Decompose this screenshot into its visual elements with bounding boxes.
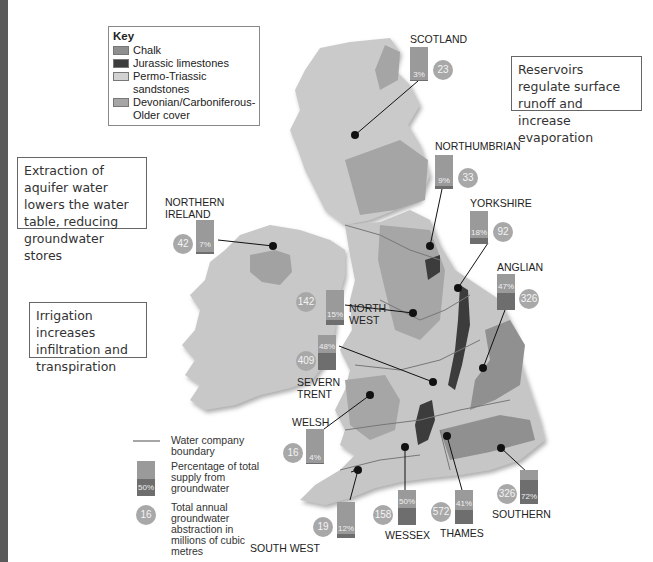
bar-welsh: 4% [306, 429, 324, 464]
bar-north-west: 15% [326, 290, 344, 325]
jurassic-swatch [113, 59, 129, 68]
region-label-north-west: NORTH WEST [349, 302, 389, 326]
dot-north-west [409, 309, 417, 317]
region-label-southern: SOUTHERN [492, 508, 551, 520]
dot-anglian [479, 364, 487, 372]
bar-northumbrian: 9% [435, 155, 453, 189]
chalk-swatch [113, 46, 129, 55]
bar-severn-trent: 48% [318, 335, 336, 370]
dot-wessex [401, 443, 409, 451]
circle-northumbrian: 33 [458, 168, 478, 188]
region-label-south-west: SOUTH WEST [250, 542, 320, 554]
bar-wessex: 50% [398, 490, 416, 525]
circle-scotland: 23 [433, 60, 453, 80]
irrigation-annotation: Irrigation increases infiltration and tr… [29, 302, 147, 358]
bar-south-west: 12% [337, 502, 355, 538]
dot-yorkshire [454, 284, 462, 292]
circle-wessex: 158 [373, 505, 393, 525]
circle-southern: 326 [497, 484, 517, 504]
permo-triassic-swatch [113, 72, 129, 81]
legend-abstraction-label: Total annual groundwater abstraction in … [171, 502, 255, 557]
dot-northern-ireland [269, 242, 277, 250]
circle-welsh: 16 [283, 443, 303, 463]
reservoirs-annotation: Reservoirs regulate surface runoff and i… [511, 56, 642, 111]
region-label-northern-ireland: NORTHERN IRELAND [165, 196, 231, 220]
circle-anglian: 326 [519, 289, 539, 309]
key-item-jurassic: Jurassic limestones [113, 57, 255, 70]
region-label-thames: THAMES [440, 527, 484, 539]
region-label-yorkshire: YORKSHIRE [470, 197, 532, 209]
dot-severn-trent [429, 378, 437, 386]
dot-welsh [366, 391, 374, 399]
legend-percentage-label: Percentage of total supply from groundwa… [171, 461, 283, 494]
legend-abstraction-circle: 16 [136, 505, 156, 525]
region-label-anglian: ANGLIAN [497, 261, 543, 273]
circle-south-west: 19 [313, 517, 333, 537]
legend-percentage-bar: 50% [137, 461, 155, 496]
dot-southern [497, 444, 505, 452]
bar-southern: 72% [520, 470, 538, 504]
key-title: Key [113, 30, 255, 43]
key-item-chalk: Chalk [113, 44, 255, 57]
region-label-scotland: SCOTLAND [410, 33, 467, 45]
devonian-swatch [113, 98, 129, 107]
region-label-northumbrian: NORTHUMBRIAN [435, 140, 521, 152]
bar-yorkshire: 18% [470, 211, 488, 244]
dot-scotland [351, 131, 359, 139]
legend-boundary-label: Water company boundary [171, 435, 251, 457]
region-label-wessex: WESSEX [385, 529, 430, 541]
region-label-welsh: WELSH [292, 416, 329, 428]
dot-thames [443, 432, 451, 440]
bar-anglian: 47% [497, 274, 515, 310]
bar-thames: 41% [455, 490, 473, 524]
region-label-severn-trent: SEVERN TRENT [297, 376, 341, 400]
key-item-devonian: Devonian/Carboniferous-Older cover [113, 96, 255, 122]
extraction-annotation: Extraction of aquifer water lowers the w… [17, 157, 147, 229]
key-item-permo-triassic: Permo-Triassic sandstones [113, 70, 255, 96]
dot-south-west [354, 466, 362, 474]
bar-northern-ireland: 7% [196, 220, 214, 254]
map-key: Key Chalk Jurassic limestones Permo-Tria… [108, 26, 260, 126]
circle-severn-trent: 409 [296, 351, 316, 371]
circle-yorkshire: 92 [493, 222, 513, 242]
circle-northern-ireland: 42 [173, 234, 193, 254]
bar-scotland: 3% [410, 47, 428, 81]
circle-north-west: 142 [296, 292, 316, 312]
dot-northumbrian [426, 242, 434, 250]
circle-thames: 572 [431, 502, 451, 522]
